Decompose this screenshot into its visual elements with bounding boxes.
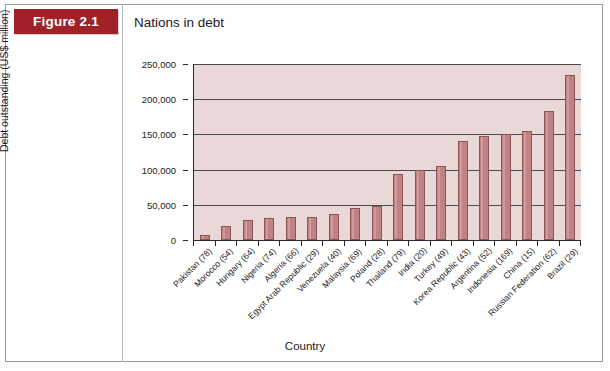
x-tick-label: Hungary (64) [214,246,257,289]
y-tick-label: 150,000 [142,129,176,140]
bar-highlight [481,137,483,239]
y-tick-label: 0 [171,235,176,246]
bar-highlight [417,171,419,239]
x-tick-mark [301,241,302,246]
gridline [194,99,581,100]
x-tick-mark [408,241,409,246]
bar [393,174,403,240]
bar [436,166,446,240]
y-tick-label: 50,000 [147,199,176,210]
x-axis-ticks [193,241,580,247]
bar [264,218,274,240]
y-axis-ticks: 250,000200,000150,000100,00050,0000 [128,0,188,371]
x-tick-label: Argentina (52) [448,246,494,292]
bar [350,208,360,240]
x-tick-label: Algeria (66) [262,246,300,284]
y-axis-title: Debt outstanding (US$ million) [0,10,10,152]
bar [522,131,532,240]
x-tick-mark [494,241,495,246]
gridline [194,64,581,65]
y-tick-mark [183,170,188,171]
bar [479,136,489,240]
bar-highlight [245,221,247,239]
x-tick-label: Turkey (49) [412,246,450,284]
bar [329,214,339,240]
bar [372,206,382,240]
plot-wrapper: Debt outstanding (US$ million) 250,00020… [0,0,610,371]
bar [286,217,296,240]
x-tick-mark [387,241,388,246]
bar [458,141,468,240]
bar-highlight [438,167,440,239]
x-tick-label: Poland (28) [348,246,386,284]
x-tick-mark [559,241,560,246]
x-tick-mark [344,241,345,246]
x-tick-label: Morocco (54) [192,246,235,289]
bar-highlight [503,135,505,239]
y-tick-mark [183,240,188,241]
x-tick-label: Indonesia (169) [465,246,514,295]
x-tick-label: India (20) [396,246,429,279]
x-tick-mark [279,241,280,246]
y-tick-mark [183,64,188,65]
bar-highlight [395,175,397,239]
bar [501,134,511,240]
x-tick-mark [473,241,474,246]
x-tick-label: Korea Republic (43) [411,246,472,307]
bar [200,235,210,240]
figure-page: Figure 2.1 Nations in debt Debt outstand… [0,0,610,371]
bar [243,220,253,240]
bar-highlight [202,236,204,239]
bar-highlight [524,132,526,239]
x-tick-mark [322,241,323,246]
bar-highlight [309,218,311,239]
x-tick-label: Brazil (29) [545,246,580,281]
x-tick-label: Egypt Arab Republic (29) [246,246,321,321]
x-tick-mark [451,241,452,246]
x-tick-mark [537,241,538,246]
bar [565,75,575,240]
x-tick-label: China (15) [501,246,536,281]
x-tick-mark [258,241,259,246]
x-tick-mark [580,241,581,246]
bar-highlight [331,215,333,239]
y-tick-mark [183,99,188,100]
x-tick-label: Malaysia (69) [320,246,364,290]
x-tick-mark [430,241,431,246]
y-tick-label: 250,000 [142,59,176,70]
bar-highlight [288,218,290,239]
bar-highlight [567,76,569,239]
x-tick-label: Nigeria (74) [239,246,278,285]
y-tick-label: 100,000 [142,164,176,175]
x-tick-mark [365,241,366,246]
bar-highlight [223,227,225,239]
plot-area [193,64,581,241]
bar-highlight [460,142,462,239]
y-tick-label: 200,000 [142,94,176,105]
x-tick-mark [215,241,216,246]
bar [221,226,231,240]
bar-highlight [352,209,354,239]
bar-highlight [374,207,376,239]
x-tick-label: Thailand (79) [364,246,407,289]
bar-highlight [546,112,548,239]
x-tick-mark [193,241,194,246]
y-tick-mark [183,205,188,206]
x-tick-mark [236,241,237,246]
bar-highlight [266,219,268,239]
x-tick-label: Venezuela (40) [295,246,343,294]
bar [544,111,554,240]
x-tick-mark [516,241,517,246]
x-axis-title: Country [0,340,610,352]
x-tick-label: Russian Federation (62) [486,246,558,318]
y-tick-mark [183,134,188,135]
bar [415,170,425,240]
bar [307,217,317,240]
